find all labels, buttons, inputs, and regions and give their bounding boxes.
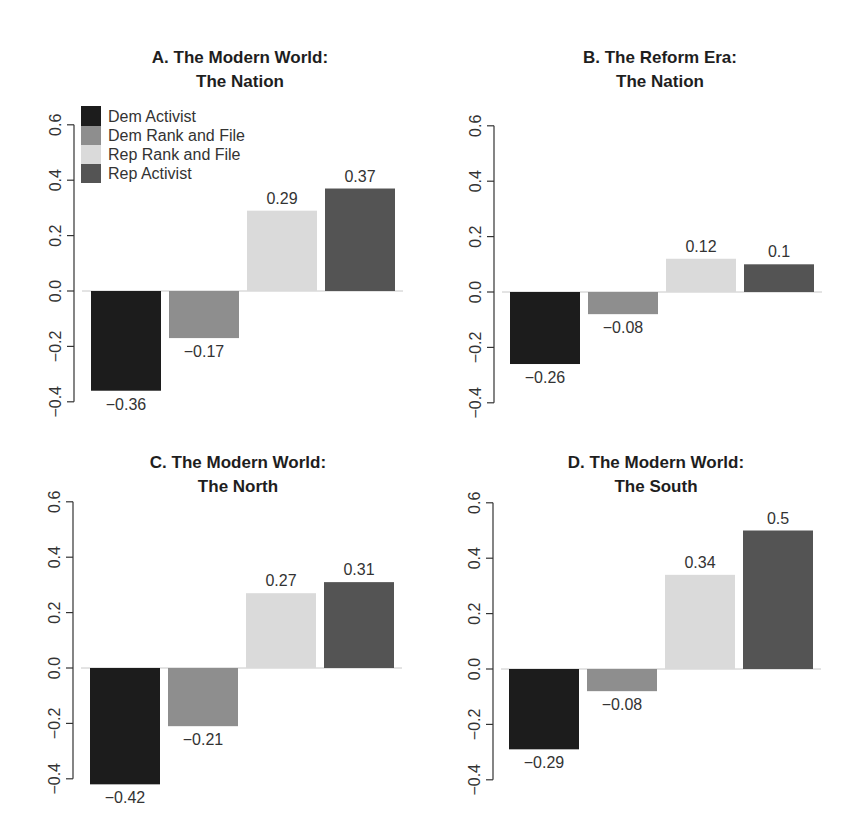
- bar-dem-rank-and-file: [588, 292, 658, 314]
- bar-rep-rank-and-file: [246, 593, 316, 668]
- y-tick-label: −0.4: [466, 764, 483, 796]
- y-tick-label: 0.2: [46, 601, 63, 623]
- y-tick-label: 0.6: [46, 491, 63, 513]
- panel-c-title: C. The Modern World:: [150, 453, 326, 472]
- y-tick-label: 0.0: [467, 281, 484, 303]
- chart-canvas: A. The Modern World: The Nation −0.4−0.2…: [0, 0, 851, 834]
- legend-label-rep-rank-and-file: Rep Rank and File: [108, 146, 241, 163]
- panel-b: B. The Reform Era: The Nation −0.4−0.20.…: [467, 48, 822, 419]
- y-tick-label: 0.4: [47, 169, 64, 191]
- value-label-rep-rank-and-file: 0.12: [685, 238, 716, 255]
- bar-dem-activist: [91, 291, 161, 391]
- y-tick-label: 0.6: [467, 115, 484, 137]
- value-label-rep-rank-and-file: 0.27: [265, 572, 296, 589]
- bar-dem-rank-and-file: [168, 668, 238, 726]
- y-tick-label: 0.6: [466, 492, 483, 514]
- legend-label-rep-activist: Rep Activist: [108, 165, 192, 182]
- legend-swatch-dem-activist: [81, 106, 101, 126]
- panel-c-bars: −0.42−0.210.270.31: [90, 561, 394, 806]
- panel-d-title: D. The Modern World:: [568, 453, 744, 472]
- y-tick-label: −0.4: [46, 763, 63, 795]
- panel-a-subtitle: The Nation: [196, 72, 284, 91]
- y-tick-label: −0.4: [467, 387, 484, 419]
- y-tick-label: 0.6: [47, 114, 64, 136]
- y-tick-label: −0.4: [47, 386, 64, 418]
- bar-rep-activist: [744, 264, 814, 292]
- legend-swatch-rep-rank-and-file: [81, 145, 101, 164]
- y-tick-label: 0.4: [466, 547, 483, 569]
- panel-c-subtitle: The North: [198, 477, 278, 496]
- panel-a-bars: −0.36−0.170.290.37: [91, 168, 395, 413]
- value-label-dem-activist: −0.42: [105, 789, 146, 806]
- value-label-dem-activist: −0.29: [524, 754, 565, 771]
- panel-b-subtitle: The Nation: [616, 72, 704, 91]
- bar-dem-activist: [509, 669, 579, 749]
- bar-dem-rank-and-file: [169, 291, 239, 338]
- y-tick-label: 0.2: [467, 225, 484, 247]
- bar-rep-rank-and-file: [666, 259, 736, 292]
- legend: Dem Activist Dem Rank and File Rep Rank …: [81, 106, 245, 183]
- bar-rep-activist: [325, 189, 395, 291]
- y-tick-label: 0.2: [47, 224, 64, 246]
- panel-b-title: B. The Reform Era:: [583, 48, 737, 67]
- value-label-rep-activist: 0.5: [767, 510, 789, 527]
- panel-a-title: A. The Modern World:: [152, 48, 328, 67]
- bar-rep-rank-and-file: [665, 575, 735, 669]
- panel-d-bars: −0.29−0.080.340.5: [509, 510, 813, 772]
- y-tick-label: −0.2: [467, 332, 484, 364]
- value-label-dem-activist: −0.36: [106, 396, 147, 413]
- y-tick-label: 0.0: [47, 280, 64, 302]
- value-label-rep-activist: 0.1: [768, 243, 790, 260]
- value-label-dem-rank-and-file: −0.21: [183, 731, 224, 748]
- bar-dem-activist: [510, 292, 580, 364]
- bar-dem-activist: [90, 668, 160, 784]
- legend-swatch-rep-activist: [81, 164, 101, 183]
- bar-dem-rank-and-file: [587, 669, 657, 691]
- legend-label-dem-activist: Dem Activist: [108, 108, 197, 125]
- legend-swatch-dem-rank-and-file: [81, 126, 101, 145]
- y-tick-label: −0.2: [466, 709, 483, 741]
- y-tick-label: 0.2: [466, 602, 483, 624]
- value-label-dem-rank-and-file: −0.08: [602, 696, 643, 713]
- value-label-dem-rank-and-file: −0.08: [603, 319, 644, 336]
- bar-rep-activist: [743, 531, 813, 670]
- panel-c: C. The Modern World: The North −0.4−0.20…: [46, 453, 402, 806]
- panel-d-subtitle: The South: [614, 477, 697, 496]
- value-label-dem-rank-and-file: −0.17: [184, 343, 225, 360]
- legend-label-dem-rank-and-file: Dem Rank and File: [108, 127, 245, 144]
- value-label-dem-activist: −0.26: [525, 369, 566, 386]
- y-tick-label: −0.2: [46, 708, 63, 740]
- y-tick-label: 0.0: [466, 658, 483, 680]
- y-tick-label: 0.4: [46, 546, 63, 568]
- value-label-rep-rank-and-file: 0.34: [684, 554, 715, 571]
- figure: A. The Modern World: The Nation −0.4−0.2…: [0, 0, 851, 834]
- y-tick-label: 0.4: [467, 170, 484, 192]
- value-label-rep-activist: 0.31: [343, 561, 374, 578]
- y-tick-label: 0.0: [46, 657, 63, 679]
- bar-rep-activist: [324, 582, 394, 668]
- value-label-rep-rank-and-file: 0.29: [266, 190, 297, 207]
- value-label-rep-activist: 0.37: [344, 168, 375, 185]
- y-tick-label: −0.2: [47, 331, 64, 363]
- bar-rep-rank-and-file: [247, 211, 317, 291]
- panel-a: A. The Modern World: The Nation −0.4−0.2…: [47, 48, 403, 418]
- panel-b-bars: −0.26−0.080.120.1: [510, 238, 814, 386]
- panel-d: D. The Modern World: The South −0.4−0.20…: [466, 453, 821, 796]
